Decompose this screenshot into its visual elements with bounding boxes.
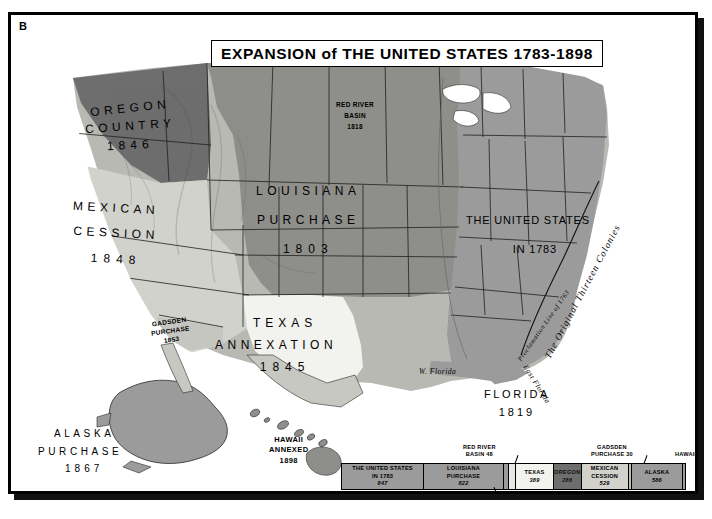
legend-segment-value: 286 bbox=[562, 477, 572, 485]
region-united-states-1783 bbox=[447, 59, 607, 377]
legend-callout-gadsden-line2: PURCHASE 30 bbox=[591, 451, 633, 458]
legend-segment-label1: OREGON bbox=[554, 469, 580, 477]
legend-callout-red-river-line1: RED RIVER bbox=[463, 444, 496, 451]
legend-segment-mexican-cession[interactable]: MEXICAN CESSION 529 bbox=[582, 464, 629, 489]
legend-segment-value: 847 bbox=[378, 480, 388, 488]
legend-segment-label1: MEXICAN bbox=[591, 465, 619, 473]
legend-segment-label1: THE UNITED STATES bbox=[352, 465, 413, 473]
legend-segment-label1: LOUISIANA bbox=[447, 465, 480, 473]
map-canvas: OREGON COUNTRY 1846 MEXICAN CESSION 1848… bbox=[11, 15, 695, 491]
legend-total-text: Total 3,615 bbox=[623, 493, 659, 494]
legend-segment-oregon[interactable]: OREGON 286 bbox=[554, 464, 582, 489]
legend-callout-gadsden-line1: GADSDEN bbox=[591, 444, 633, 451]
legend-segment-value: 529 bbox=[600, 480, 610, 488]
map-title-box: EXPANSION of THE UNITED STATES 1783-1898 bbox=[211, 40, 603, 67]
legend-segment-label1: ALASKA bbox=[645, 469, 670, 477]
hawaii-inset bbox=[249, 408, 341, 476]
legend-callout-florida: FLORIDA 72 bbox=[454, 493, 489, 494]
legend-segment-value: 389 bbox=[529, 477, 539, 485]
legend-segment-value: 822 bbox=[458, 480, 468, 488]
legend-segment-label2: IN 1783 bbox=[372, 473, 393, 481]
page-title: EXPANSION of THE UNITED STATES 1783-1898 bbox=[221, 45, 593, 63]
legend-segment-label2: CESSION bbox=[591, 473, 618, 481]
legend-segment-value: 586 bbox=[652, 477, 662, 485]
legend-segment-hawaii[interactable] bbox=[683, 464, 685, 489]
alaska-inset bbox=[97, 380, 227, 473]
legend-segment-label1: TEXAS bbox=[525, 469, 545, 477]
map-graphic bbox=[11, 15, 695, 491]
legend-segment-louisiana-purchase[interactable]: LOUISIANA PURCHASE 822 bbox=[424, 464, 504, 489]
legend-figures-note-line1: Figures are thousands bbox=[349, 493, 424, 494]
legend-segment-united-states-1783[interactable]: THE UNITED STATES IN 1783 847 bbox=[342, 464, 424, 489]
legend-segment-texas[interactable]: TEXAS 389 bbox=[516, 464, 554, 489]
legend-callout-gadsden: GADSDEN PURCHASE 30 bbox=[591, 444, 633, 459]
legend-segment-florida[interactable] bbox=[509, 464, 516, 489]
map-page: B bbox=[0, 0, 712, 519]
legend-callout-hawaii: HAWAII 6 bbox=[675, 451, 698, 458]
legend-total: Total 3,615 bbox=[623, 493, 659, 494]
legend-figures-note: Figures are thousands of square miles bbox=[349, 493, 424, 494]
legend-callout-florida-text: FLORIDA 72 bbox=[454, 493, 489, 494]
legend-callout-red-river: RED RIVER BASIN 48 bbox=[463, 444, 496, 459]
legend-segment-alaska[interactable]: ALASKA 586 bbox=[632, 464, 684, 489]
region-red-river-basin bbox=[329, 65, 385, 107]
legend-segment-label2: PURCHASE bbox=[447, 473, 480, 481]
legend-callout-hawaii-line1: HAWAII 6 bbox=[675, 451, 698, 458]
map-plate: B bbox=[8, 12, 698, 494]
legend-callout-red-river-line2: BASIN 48 bbox=[463, 451, 496, 458]
area-legend-bar: THE UNITED STATES IN 1783 847 LOUISIANA … bbox=[341, 463, 686, 490]
region-florida-1819 bbox=[429, 361, 539, 427]
